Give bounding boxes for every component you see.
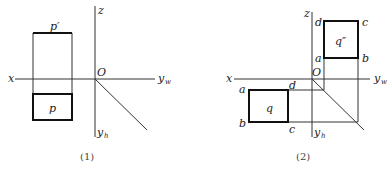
yh-subscript: h (104, 132, 109, 140)
vertex-d-top: d (289, 79, 296, 92)
vertex-b-side: b (362, 52, 369, 65)
vertex-b-top: b (239, 117, 246, 130)
vertex-c-side: c (362, 16, 368, 29)
origin-label: O (312, 66, 321, 79)
p-label: p (49, 102, 56, 115)
z-axis-label: z (97, 4, 104, 17)
vertex-a-side: a (315, 52, 322, 65)
z-axis-label: z (303, 7, 310, 20)
x-axis-label: x (8, 72, 15, 85)
origin-label: O (97, 66, 106, 79)
yh-axis-label: y (96, 126, 104, 139)
yh-subscript: h (321, 132, 326, 140)
projection-diagram: p′ p z x O y w y h (1) q″ d c a b q a d … (0, 0, 392, 173)
panel-2: q″ d c a b q a d b c z x O y w y h (2) (226, 7, 387, 162)
45-degree-line (95, 79, 147, 130)
yw-subscript: w (381, 78, 387, 86)
vertex-a-top: a (239, 83, 246, 96)
yw-subscript: w (165, 78, 171, 86)
yh-axis-label: y (313, 126, 321, 139)
vertex-d-side: d (315, 16, 322, 29)
q-double-prime-label: q″ (335, 35, 347, 48)
yw-axis-label: y (157, 72, 165, 85)
p-prime-label: p′ (50, 20, 60, 33)
caption-2: (2) (296, 151, 310, 162)
yw-axis-label: y (373, 72, 381, 85)
caption-1: (1) (80, 151, 94, 162)
x-axis-label: x (226, 72, 233, 85)
q-label: q (266, 102, 273, 115)
vertex-c-top: c (289, 123, 295, 136)
panel-1: p′ p z x O y w y h (1) (8, 4, 171, 162)
